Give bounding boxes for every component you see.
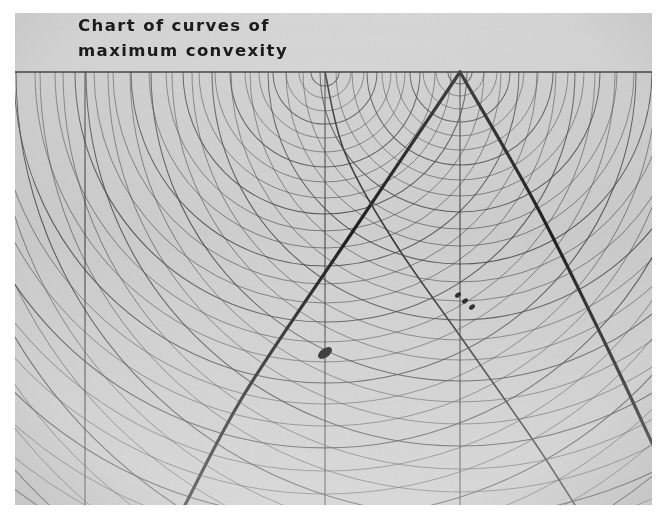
figure-root: Chart of curves of maximum convexity (0, 0, 667, 520)
chart-canvas (15, 13, 652, 505)
vignette (15, 13, 652, 505)
photographic-plate (15, 13, 652, 505)
